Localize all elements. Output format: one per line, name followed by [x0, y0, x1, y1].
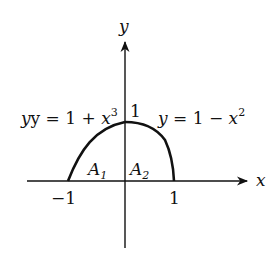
equation-left: yy = 1 + x3	[20, 106, 118, 128]
equation-right: y = 1 − x2	[157, 106, 245, 128]
region-a2-label: A2	[128, 159, 149, 182]
x-axis-label: x	[256, 170, 266, 190]
area-diagram: y x −1 1 1 yy = 1 + x3 y = 1 − x2 A1 A2	[0, 0, 274, 259]
x-tick-neg1: −1	[51, 188, 76, 208]
region-a1-label: A1	[86, 159, 107, 182]
x-tick-1: 1	[169, 188, 180, 208]
y-axis-label: y	[118, 16, 129, 36]
y-tick-1: 1	[130, 101, 141, 121]
